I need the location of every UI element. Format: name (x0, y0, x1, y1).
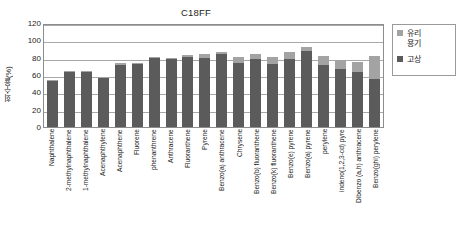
bar-segment-solid-phase (301, 51, 312, 127)
x-axis-tick-label: Acenaphthene (114, 129, 125, 229)
bars-layer (44, 25, 383, 127)
bar-group (98, 25, 109, 127)
x-axis-tick-label: phenanthrene (148, 129, 159, 229)
bar-group (284, 25, 295, 127)
x-axis-tick-label: Benzo(a) pyrene (302, 129, 313, 229)
bar-group (166, 25, 177, 127)
y-axis-title: 회수율(%) (2, 48, 16, 120)
chart-title: C18FF (0, 7, 392, 18)
bar-segment-solid-phase (81, 72, 92, 127)
y-axis-tick-labels: 020406080100120 (15, 24, 41, 128)
x-axis-tick-label: 2-methylnaphthalene (63, 129, 74, 229)
legend-item: 유리 용기 (397, 29, 452, 48)
bar-segment-solid-phase (369, 79, 380, 127)
bar-segment-solid-phase (233, 63, 244, 127)
bar-group (182, 25, 193, 127)
bar-group (301, 25, 312, 127)
bar-segment-solid-phase (166, 59, 177, 127)
bar-segment-solid-phase (216, 54, 227, 127)
plot-area (43, 24, 384, 128)
bar-segment-solid-phase (284, 59, 295, 127)
bar-group (352, 25, 363, 127)
bar-group (216, 25, 227, 127)
x-axis-tick-label: Benzo(e) pyrene (285, 129, 296, 229)
x-axis-tick-label: Benzo(b) fluoranthene (251, 129, 262, 229)
bar-segment-solid-phase (250, 59, 261, 127)
bar-segment-solid-phase (64, 72, 75, 127)
legend-swatch-icon (397, 30, 403, 36)
bar-segment-solid-phase (267, 64, 278, 127)
bar-segment-solid-phase (352, 72, 363, 127)
bar-segment-solid-phase (149, 58, 160, 127)
bar-segment-glass-vessel (352, 62, 363, 72)
bar-segment-solid-phase (182, 57, 193, 127)
chart-container: C18FF 회수율(%) 020406080100120 Naphthalene… (0, 0, 460, 235)
bar-group (250, 25, 261, 127)
bar-group (267, 25, 278, 127)
bar-segment-glass-vessel (318, 56, 329, 66)
bar-segment-solid-phase (98, 78, 109, 127)
x-axis-tick-label: 1-methylnaphthalene (80, 129, 91, 229)
bar-group (369, 25, 380, 127)
bar-group (233, 25, 244, 127)
x-axis-tick-label: Fluoranthene (182, 129, 193, 229)
x-axis-tick-label: Anthracene (165, 129, 176, 229)
y-axis-tick-label: 120 (19, 19, 41, 28)
x-axis-tick-label: Benzo(ghi) perylene (370, 129, 381, 229)
legend-item: 고상 (397, 55, 452, 65)
bar-group (64, 25, 75, 127)
bar-segment-glass-vessel (369, 56, 380, 79)
bar-group (199, 25, 210, 127)
y-axis-tick-label: 60 (19, 71, 41, 80)
y-axis-tick-label: 40 (19, 88, 41, 97)
bar-group (132, 25, 143, 127)
x-axis-tick-labels: Naphthalene2-methylnaphthalene1-methylna… (43, 129, 384, 229)
bar-group (335, 25, 346, 127)
y-axis-tick-label: 100 (19, 36, 41, 45)
legend-swatch-icon (397, 56, 403, 62)
bar-segment-glass-vessel (267, 57, 278, 64)
bar-group (47, 25, 58, 127)
legend-item-label: 유리 용기 (407, 29, 421, 48)
legend-item-label: 고상 (407, 55, 421, 65)
x-axis-tick-label: Acenaphthylene (97, 129, 108, 229)
x-axis-tick-label: Dibenzo (a,h) anthracene (353, 129, 364, 229)
bar-segment-solid-phase (47, 81, 58, 127)
y-axis-tick-label: 0 (19, 123, 41, 132)
bar-group (149, 25, 160, 127)
bar-group (81, 25, 92, 127)
bar-segment-solid-phase (115, 65, 126, 127)
x-axis-tick-label: indeno(1,2,3-cd) pyre (336, 129, 347, 229)
x-axis-tick-label: Chrysene (234, 129, 245, 229)
bar-segment-solid-phase (318, 65, 329, 127)
x-axis-tick-label: perylene (319, 129, 330, 229)
x-axis-tick-label: Benzo(k) fluoranthene (268, 129, 279, 229)
x-axis-tick-label: Benzo(a) anthracene (216, 129, 227, 229)
chart-legend: 유리 용기고상 (392, 24, 456, 76)
x-axis-tick-label: Fluorene (131, 129, 142, 229)
bar-segment-solid-phase (132, 64, 143, 127)
bar-group (318, 25, 329, 127)
bar-segment-glass-vessel (335, 60, 346, 69)
bar-segment-solid-phase (335, 69, 346, 127)
y-axis-tick-label: 80 (19, 54, 41, 63)
bar-segment-solid-phase (199, 58, 210, 127)
x-axis-tick-label: Pyrene (199, 129, 210, 229)
x-axis-tick-label: Naphthalene (46, 129, 57, 229)
y-axis-tick-label: 20 (19, 106, 41, 115)
bar-group (115, 25, 126, 127)
